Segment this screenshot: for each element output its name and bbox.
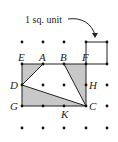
curved-arrow-icon bbox=[68, 19, 95, 35]
label-D: D bbox=[9, 79, 18, 91]
unit-square bbox=[86, 42, 107, 64]
label-E: E bbox=[17, 51, 25, 63]
annotation-label: 1 sq. unit bbox=[25, 14, 62, 25]
label-K: K bbox=[60, 108, 69, 120]
label-B: B bbox=[60, 51, 67, 63]
label-C: C bbox=[89, 100, 97, 112]
geometry-diagram: 1 sq. unit E A B F D H G K C bbox=[0, 0, 118, 142]
label-F: F bbox=[81, 51, 89, 63]
arrowhead-icon bbox=[92, 33, 98, 38]
label-A: A bbox=[38, 51, 46, 63]
label-G: G bbox=[10, 100, 18, 112]
label-H: H bbox=[88, 79, 98, 91]
